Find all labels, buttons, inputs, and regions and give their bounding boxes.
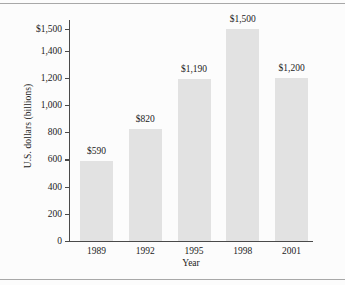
y-axis-tick — [65, 241, 70, 242]
x-axis-tick-label: 1998 — [233, 246, 252, 256]
y-axis-tick — [65, 78, 70, 79]
y-axis-tick-label: 200 — [48, 209, 62, 219]
bar-value-label: $1,190 — [181, 64, 207, 74]
y-axis-tick-label: 0 — [57, 236, 62, 246]
bar — [226, 29, 259, 241]
y-axis-tick — [65, 132, 70, 133]
bar-value-label: $820 — [136, 114, 155, 124]
bar — [178, 79, 211, 241]
y-axis-tick-label: 1,200 — [41, 73, 62, 83]
y-axis-line — [69, 20, 70, 242]
bar-value-label: $1,200 — [279, 63, 305, 73]
bar — [275, 78, 308, 241]
x-axis-tick-label: 1989 — [87, 246, 106, 256]
y-axis-tick — [65, 105, 70, 106]
x-axis-line — [69, 241, 313, 242]
y-axis-tick — [65, 29, 70, 30]
bar — [80, 161, 113, 241]
y-axis-tick-label: 600 — [48, 154, 62, 164]
y-axis-tick-label: 1,000 — [41, 100, 62, 110]
y-axis-tick-label: 400 — [48, 182, 62, 192]
bar-value-label: $590 — [87, 146, 106, 156]
x-axis-title: Year — [69, 258, 313, 268]
bottom-rule — [0, 279, 345, 280]
x-axis-tick-label: 2001 — [282, 246, 301, 256]
y-axis-tick — [65, 159, 70, 160]
plot-area: 02004006008001,0001,2001,400$1,500$59019… — [69, 20, 313, 242]
y-axis-title: U.S. dollars (billions) — [23, 51, 33, 201]
bar-chart: U.S. dollars (billions) 02004006008001,0… — [0, 4, 345, 279]
figure-page: U.S. dollars (billions) 02004006008001,0… — [0, 0, 345, 285]
y-axis-tick — [65, 51, 70, 52]
y-axis-tick-label: 1,400 — [41, 46, 62, 56]
bar — [129, 129, 162, 241]
y-axis-tick-label: $1,500 — [36, 24, 62, 34]
x-axis-tick-label: 1992 — [136, 246, 155, 256]
y-axis-tick — [65, 187, 70, 188]
bar-value-label: $1,500 — [230, 14, 256, 24]
y-axis-tick-label: 800 — [48, 127, 62, 137]
x-axis-tick-label: 1995 — [185, 246, 204, 256]
y-axis-tick — [65, 214, 70, 215]
